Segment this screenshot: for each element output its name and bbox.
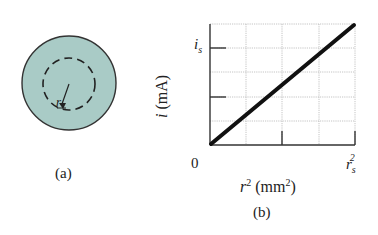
y-tick-is: is — [194, 36, 202, 55]
data-line — [211, 25, 354, 144]
caption-b: (b) — [253, 204, 271, 221]
y-axis-label: i (mA) — [153, 75, 171, 118]
wire-cross-section — [22, 36, 116, 130]
caption-a-text: (a) — [55, 165, 72, 181]
x-tick-rs2: rs2 — [346, 154, 361, 175]
caption-a: (a) — [55, 165, 72, 182]
figure-canvas — [0, 0, 378, 235]
x-axis-label: r2 (mm2) — [240, 177, 296, 196]
radius-label: r — [56, 94, 61, 110]
caption-b-text: (b) — [253, 204, 271, 220]
x-origin-label: 0 — [191, 155, 199, 172]
